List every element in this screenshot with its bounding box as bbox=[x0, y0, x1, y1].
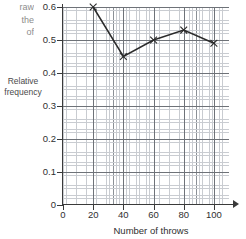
data-series-layer bbox=[0, 0, 246, 239]
data-point-marker bbox=[211, 40, 218, 47]
series-line bbox=[93, 7, 214, 57]
data-point-marker bbox=[120, 53, 127, 60]
data-point-marker bbox=[90, 4, 97, 11]
relative-frequency-line-chart: raw the of Relative frequency 00.10.20.3… bbox=[0, 0, 246, 239]
